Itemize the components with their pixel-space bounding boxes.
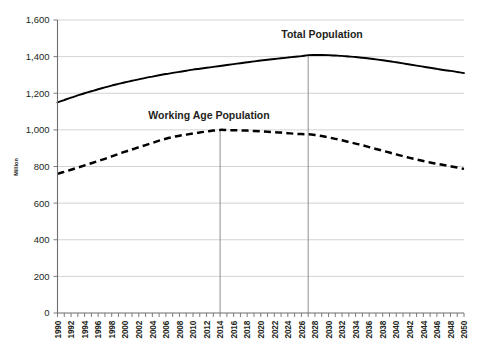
- x-tick-label: 2030: [325, 320, 334, 338]
- y-tick-label: 400: [34, 234, 50, 245]
- y-tick-labels: 02004006008001,0001,2001,4001,600: [26, 14, 50, 318]
- y-tick-label: 1,600: [26, 14, 50, 25]
- x-tick-labels: 1990199219941996199820002002200420062008…: [54, 320, 470, 338]
- y-tick-label: 600: [34, 198, 50, 209]
- x-tick-label: 2038: [379, 320, 388, 338]
- y-tick-marks: [54, 20, 58, 313]
- x-tick-label: 2014: [216, 320, 225, 338]
- x-tick-label: 2004: [149, 320, 158, 338]
- x-tick-label: 2048: [447, 320, 456, 338]
- y-tick-label: 800: [34, 161, 50, 172]
- x-tick-label: 1996: [94, 320, 103, 338]
- x-tick-label: 2002: [135, 320, 144, 338]
- y-tick-label: 1,200: [26, 88, 50, 99]
- x-tick-label: 2042: [406, 320, 415, 338]
- series-line-working-age-population: [58, 130, 465, 174]
- x-tick-label: 2010: [189, 320, 198, 338]
- y-tick-label: 1,400: [26, 51, 50, 62]
- population-projection-chart: 02004006008001,0001,2001,4001,600 199019…: [0, 0, 479, 361]
- x-tick-label: 1994: [81, 320, 90, 338]
- x-tick-label: 2020: [257, 320, 266, 338]
- x-tick-label: 2022: [271, 320, 280, 338]
- x-tick-label: 2034: [352, 320, 361, 338]
- x-tick-label: 2040: [392, 320, 401, 338]
- x-tick-label: 1990: [54, 320, 63, 338]
- gridlines: [58, 20, 465, 276]
- peak-marker-lines: [220, 55, 308, 313]
- chart-canvas: 02004006008001,0001,2001,4001,600 199019…: [0, 0, 479, 361]
- annotation-working-age-population: Working Age Population: [148, 109, 269, 121]
- x-tick-label: 2016: [230, 320, 239, 338]
- x-tick-label: 2028: [311, 320, 320, 338]
- series-line-total-population: [58, 55, 465, 102]
- x-tick-label: 2032: [338, 320, 347, 338]
- x-tick-label: 2050: [460, 320, 469, 338]
- x-tick-label: 2036: [365, 320, 374, 338]
- x-tick-label: 2026: [298, 320, 307, 338]
- y-tick-label: 200: [34, 271, 50, 282]
- x-tick-label: 1992: [67, 320, 76, 338]
- x-tick-label: 2046: [433, 320, 442, 338]
- x-tick-label: 2006: [162, 320, 171, 338]
- x-tick-label: 2008: [176, 320, 185, 338]
- x-tick-label: 1998: [108, 320, 117, 338]
- y-tick-label: 0: [44, 307, 49, 318]
- x-tick-label: 2018: [243, 320, 252, 338]
- x-tick-marks: [58, 313, 465, 317]
- annotation-total-population: Total Population: [281, 28, 362, 40]
- x-tick-label: 2000: [121, 320, 130, 338]
- y-tick-label: 1,000: [26, 124, 50, 135]
- x-tick-label: 2044: [420, 320, 429, 338]
- x-tick-label: 2024: [284, 320, 293, 338]
- x-tick-label: 2012: [203, 320, 212, 338]
- y-axis-title: Million: [13, 158, 19, 176]
